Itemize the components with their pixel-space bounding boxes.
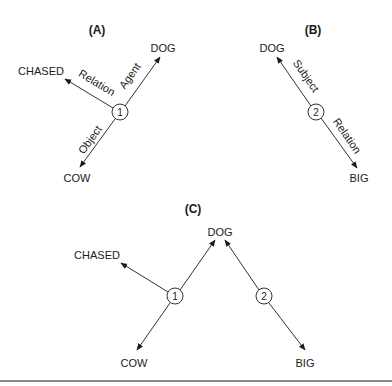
- node-cow: COW: [64, 172, 92, 184]
- node-chased: CHASED: [74, 249, 120, 261]
- node-cow: COW: [121, 357, 149, 369]
- edge-label-relation: Relation: [331, 116, 364, 156]
- node-dog: DOG: [259, 42, 284, 54]
- panel-c-label: (C): [185, 202, 202, 216]
- proposition-number: 2: [261, 291, 267, 302]
- propositional-network-diagram: (A) 1 CHASED DOG COW Relation Agent Obje…: [0, 0, 392, 386]
- panel-a: (A) 1 CHASED DOG COW Relation Agent Obje…: [18, 23, 175, 184]
- proposition-number: 1: [172, 291, 178, 302]
- panel-b: (B) 2 DOG BIG Subject Relation: [259, 23, 368, 184]
- edge-label-relation: Relation: [77, 67, 118, 98]
- proposition-number: 1: [117, 107, 123, 118]
- node-big: BIG: [296, 357, 315, 369]
- node-big: BIG: [350, 172, 369, 184]
- node-chased: CHASED: [18, 65, 64, 77]
- edge-2-dog-arrow: [225, 240, 259, 290]
- edge-1-dog-arrow: [180, 240, 215, 290]
- node-dog: DOG: [150, 42, 175, 54]
- panel-c: (C) 1 2 CHASED DOG COW BIG: [74, 202, 314, 369]
- node-dog: DOG: [207, 226, 232, 238]
- edge-1-chased-arrow: [121, 263, 168, 292]
- edge-1-cow-arrow: [137, 303, 170, 350]
- panel-a-label: (A): [89, 23, 106, 37]
- panel-b-label: (B): [305, 23, 322, 37]
- proposition-number: 2: [313, 107, 319, 118]
- edge-label-subject: Subject: [291, 57, 322, 94]
- edge-2-big-arrow: [269, 303, 305, 350]
